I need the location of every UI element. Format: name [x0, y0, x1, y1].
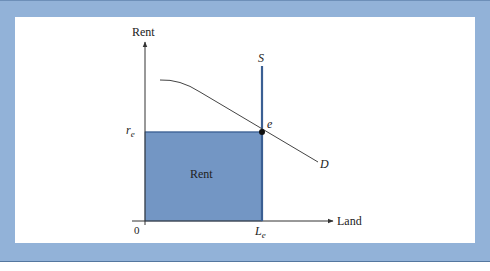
supply-label: S: [258, 51, 264, 65]
rent-area-label: Rent: [190, 167, 213, 181]
rent-diagram: Rent Land 0 S D e re Le Rent: [0, 0, 490, 271]
rent-price-label: re: [126, 123, 135, 139]
y-axis-label: Rent: [132, 25, 155, 39]
origin-label: 0: [134, 224, 140, 236]
equilibrium-label: e: [267, 117, 273, 131]
demand-label: D: [319, 157, 329, 171]
x-axis-label: Land: [337, 214, 362, 228]
land-quantity-label: Le: [254, 224, 266, 240]
equilibrium-point: [259, 129, 265, 135]
